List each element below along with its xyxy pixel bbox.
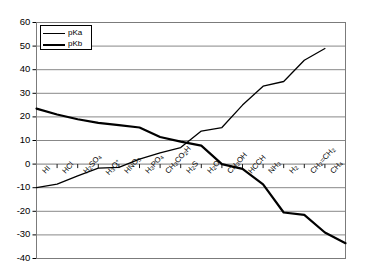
y-tick-label: 50 bbox=[2, 41, 30, 51]
y-tick-label: 40 bbox=[2, 64, 30, 74]
chart-legend: pKa pKb bbox=[40, 25, 92, 50]
data-series bbox=[37, 48, 346, 243]
legend-entry-pka: pKa bbox=[43, 28, 91, 38]
legend-swatch-pkb bbox=[43, 44, 65, 46]
y-tick-label: 60 bbox=[2, 17, 30, 27]
y-tick-label: -20 bbox=[2, 206, 30, 216]
y-tick-label: -40 bbox=[2, 253, 30, 263]
gridlines bbox=[37, 23, 346, 259]
legend-label-pkb: pKb bbox=[68, 39, 82, 49]
legend-entry-pkb: pKb bbox=[43, 39, 91, 49]
legend-label-pka: pKa bbox=[68, 28, 82, 38]
pka-pkb-chart: 6050403020100-10-20-30-40 HIHClH2SO4H3O+… bbox=[0, 0, 367, 277]
y-tick-label: 0 bbox=[2, 159, 30, 169]
y-tick-label: 10 bbox=[2, 135, 30, 145]
y-tick-label: -10 bbox=[2, 182, 30, 192]
y-tick-label: 20 bbox=[2, 111, 30, 121]
y-axis-ticks bbox=[33, 23, 37, 259]
y-tick-label: -30 bbox=[2, 229, 30, 239]
y-tick-label: 30 bbox=[2, 88, 30, 98]
legend-swatch-pka bbox=[43, 33, 65, 34]
